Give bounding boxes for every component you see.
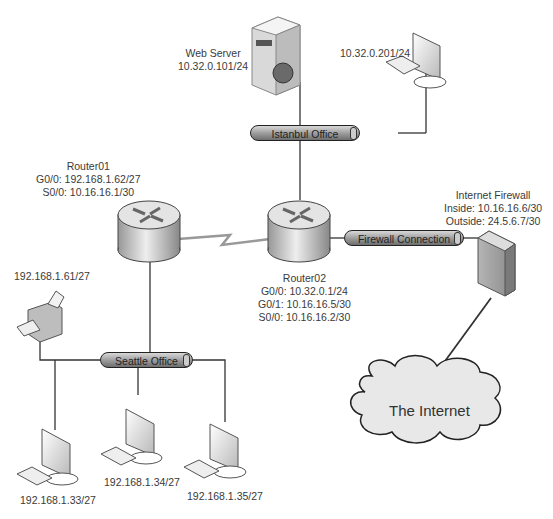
router02-name: Router02 [258,272,351,285]
web-server-ip: 10.32.0.101/24 [178,60,248,73]
segment-istanbul-office: Istanbul Office [250,125,360,141]
printer-ip: 192.168.1.61/27 [14,270,90,283]
printer-icon [17,291,64,342]
segment-firewall-connection: Firewall Connection [344,230,464,246]
istanbul-pc-icon [386,33,446,88]
router02-label: Router02 G0/0: 10.32.0.1/24 G0/1: 10.16.… [258,272,351,324]
pc3-icon [184,424,246,478]
pc2-ip: 192.168.1.34/27 [104,476,180,489]
web-server-icon [252,17,300,95]
router01-s00: S0/0: 10.16.16.1/30 [36,186,141,199]
router01-g00: G0/0: 192.168.1.62/27 [36,173,141,186]
router02-s00: S0/0: 10.16.16.2/30 [258,311,351,324]
pc1-ip: 192.168.1.33/27 [20,494,96,507]
segment-seattle-office: Seattle Office [100,352,193,368]
firewall-label: Internet Firewall Inside: 10.16.16.6/30 … [444,189,542,228]
router02-g01: G0/1: 10.16.16.5/30 [258,298,351,311]
router01-icon [118,201,180,262]
web-server-name: Web Server [178,47,248,60]
router02-icon [268,201,330,262]
router01-label: Router01 G0/0: 192.168.1.62/27 S0/0: 10.… [36,160,141,199]
router02-g00: G0/0: 10.32.0.1/24 [258,285,351,298]
pc3-ip: 192.168.1.35/27 [187,490,263,503]
internet-label: The Internet [389,402,470,419]
pc1-icon [17,429,78,485]
topology-canvas [0,0,553,519]
firewall-icon [478,231,515,296]
firewall-inside: Inside: 10.16.16.6/30 [444,202,542,215]
pc2-icon [101,409,162,465]
web-server-label: Web Server 10.32.0.101/24 [178,47,248,73]
internet-cloud-icon [351,356,501,443]
istanbul-pc-ip: 10.32.0.201/24 [340,47,410,60]
router01-name: Router01 [36,160,141,173]
firewall-outside: Outside: 24.5.6.7/30 [444,215,542,228]
firewall-name: Internet Firewall [444,189,542,202]
